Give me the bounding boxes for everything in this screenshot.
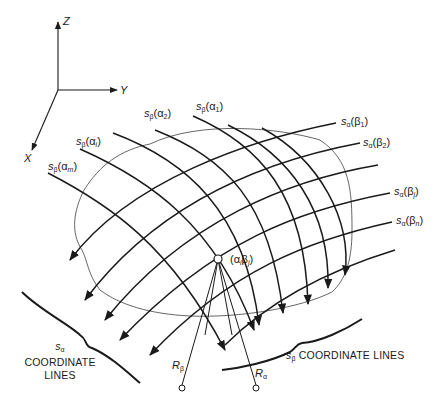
label-s-alpha-beta-j: sα(βj) (394, 186, 419, 198)
s-alpha-coordinate-lines (70, 123, 395, 355)
x-axis-label: X (24, 153, 31, 164)
s-beta-line (113, 133, 259, 325)
label-point-alpha-i-beta-j: (αiβj) (230, 254, 253, 266)
s-alpha-line (105, 165, 378, 320)
z-axis-label: Z (63, 16, 70, 27)
label-s-alpha-beta-2: sα(β2) (363, 137, 390, 149)
label-s-beta-alpha-i: sβ(αi) (76, 136, 101, 148)
caption-s-alpha-coordinate-lines: sα COORDINATE LINES (24, 340, 96, 382)
r-beta-center (179, 385, 185, 391)
label-r-beta: Rβ (172, 360, 184, 372)
r-alpha-center (253, 385, 259, 391)
label-r-alpha: Rα (255, 368, 267, 380)
label-s-beta-alpha-1: sβ(α1) (196, 101, 223, 113)
s-beta-coordinate-lines (48, 116, 346, 350)
s-beta-terminus-curve (222, 319, 362, 370)
label-s-alpha-beta-n: sα(βn) (396, 215, 423, 227)
label-s-beta-alpha-2: sβ(α2) (144, 108, 171, 120)
s-beta-line-alpha-1 (193, 116, 308, 304)
x-axis (32, 90, 58, 150)
r-beta-line (182, 259, 218, 385)
axes-triad (32, 22, 117, 150)
point-alpha-i-beta-j (214, 255, 222, 263)
label-s-beta-alpha-m: sβ(αm) (48, 161, 77, 173)
label-s-alpha-beta-1: sα(β1) (341, 116, 368, 128)
y-axis-label: Y (120, 85, 127, 96)
s-beta-line (262, 128, 346, 275)
caption-s-beta-coordinate-lines: sβ COORDINATE LINES (286, 350, 405, 362)
coordinate-lines-diagram: Z Y X sβ(α1) sβ(α2) sβ(αi) sβ(αm) sα(β1)… (0, 0, 442, 410)
